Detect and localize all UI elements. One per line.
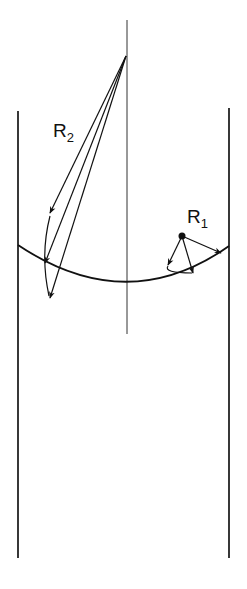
r1-vector-3 bbox=[182, 236, 221, 253]
r1-vector-2 bbox=[182, 236, 193, 273]
meniscus-diagram: R2 R1 bbox=[0, 0, 247, 589]
r2-vector-2 bbox=[45, 56, 126, 263]
r2-label: R2 bbox=[53, 120, 74, 145]
r2-vector-3 bbox=[50, 56, 126, 298]
r1-vector-1 bbox=[168, 236, 182, 265]
r1-label: R1 bbox=[187, 206, 208, 231]
r2-radius-vectors bbox=[45, 56, 126, 298]
